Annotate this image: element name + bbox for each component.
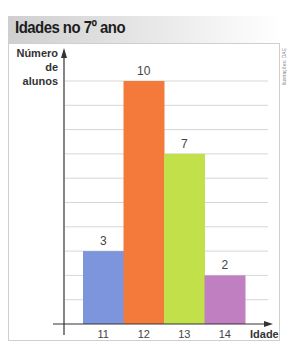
bar-12 xyxy=(124,81,165,324)
bar-chart: 3111012713214 xyxy=(0,0,290,345)
y-axis-arrow-icon xyxy=(61,48,67,58)
bar-14 xyxy=(205,275,246,324)
x-tick-label: 13 xyxy=(178,328,190,340)
bar-13 xyxy=(164,154,205,324)
data-label: 10 xyxy=(137,64,151,78)
x-tick-label: 11 xyxy=(98,328,109,340)
x-tick-label: 14 xyxy=(219,328,231,340)
data-label: 7 xyxy=(181,137,188,151)
bar-11 xyxy=(83,251,124,324)
x-axis-arrow-icon xyxy=(264,321,273,327)
x-tick-label: 12 xyxy=(138,328,150,340)
data-label: 2 xyxy=(221,258,228,272)
data-label: 3 xyxy=(100,234,107,248)
